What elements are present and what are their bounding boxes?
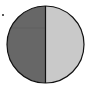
right-half <box>46 6 84 83</box>
left-half <box>7 6 46 83</box>
split-circle-diagram <box>0 0 89 96</box>
